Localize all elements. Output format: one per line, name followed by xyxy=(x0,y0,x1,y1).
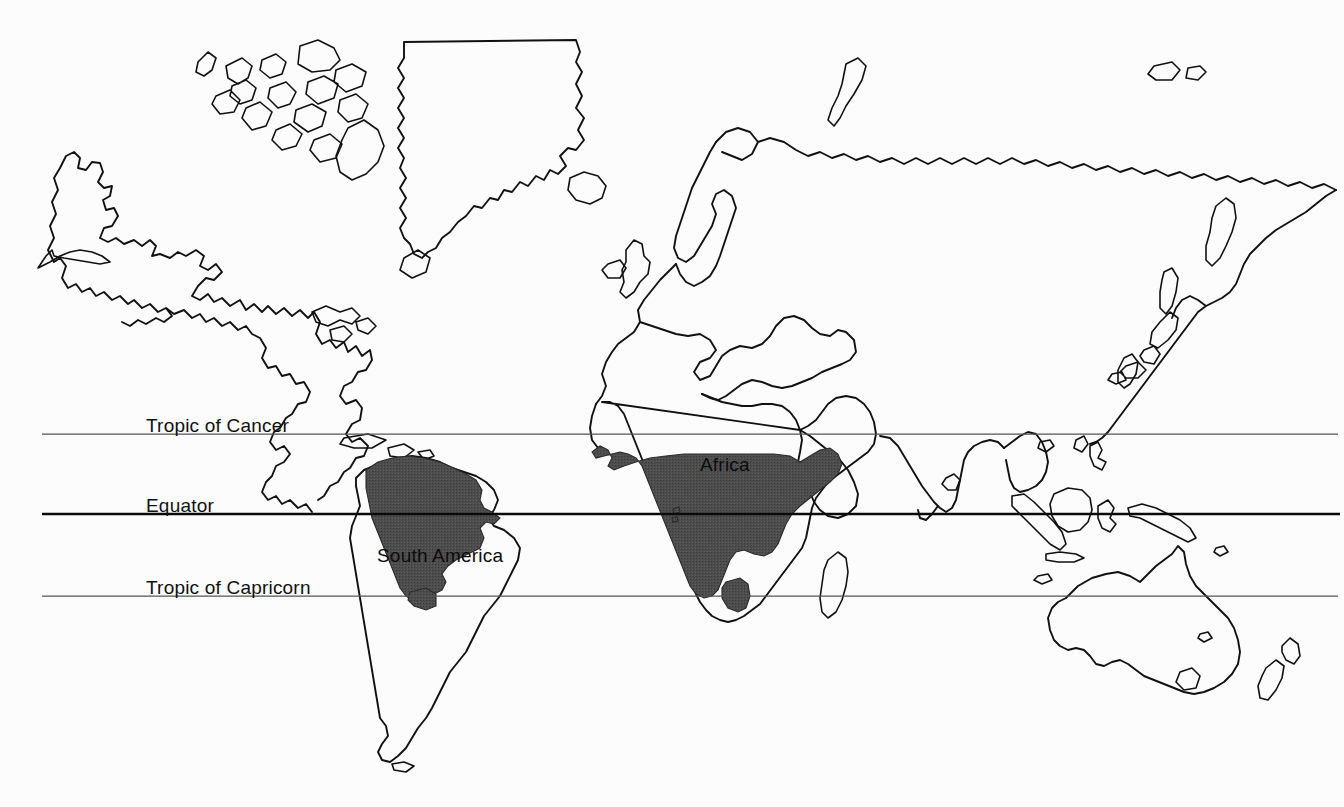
tropic-of-capricorn-label: Tropic of Capricorn xyxy=(146,577,311,598)
map-canvas: Tropic of Cancer Equator Tropic of Capri… xyxy=(0,0,1344,807)
tropic-of-cancer-label: Tropic of Cancer xyxy=(146,415,289,436)
map-background xyxy=(0,0,1344,807)
africa-region-label: Africa xyxy=(700,454,750,475)
equator-label: Equator xyxy=(146,495,214,516)
south-america-region-label: South America xyxy=(377,545,503,566)
world-map-figure: Tropic of Cancer Equator Tropic of Capri… xyxy=(0,0,1344,807)
